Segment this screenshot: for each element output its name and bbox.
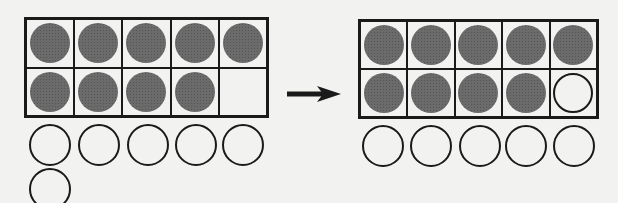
filled-counter-icon xyxy=(78,23,118,63)
filled-counter-icon xyxy=(175,72,215,112)
filled-counter-icon xyxy=(411,73,451,113)
empty-counter-icon xyxy=(553,125,595,167)
filled-counter-icon xyxy=(30,23,70,63)
empty-counter-icon xyxy=(29,168,71,203)
filled-counter-icon xyxy=(126,23,166,63)
empty-counter-icon xyxy=(505,125,547,167)
filled-counter-icon xyxy=(175,23,215,63)
frame-cell xyxy=(502,21,549,69)
filled-counter-icon xyxy=(506,73,546,113)
frame-cell xyxy=(171,19,219,68)
empty-counter-icon xyxy=(127,124,169,166)
right-arrow-icon xyxy=(287,86,341,102)
filled-counter-icon xyxy=(458,73,498,113)
frame-cell xyxy=(26,68,74,117)
frame-cell xyxy=(74,68,122,117)
filled-counter-icon xyxy=(506,25,546,65)
filled-counter-icon xyxy=(30,72,70,112)
frame-cell xyxy=(407,21,454,69)
frame-cell xyxy=(26,19,74,68)
frame-cell xyxy=(455,69,502,117)
empty-counter-icon xyxy=(410,125,452,167)
frame-cell xyxy=(122,68,170,117)
filled-counter-icon xyxy=(223,23,263,63)
frame-cell-empty xyxy=(219,68,267,117)
filled-counter-icon xyxy=(553,25,593,65)
frame-cell xyxy=(502,69,549,117)
empty-counter-icon xyxy=(553,73,593,113)
filled-counter-icon xyxy=(411,25,451,65)
filled-counter-icon xyxy=(126,72,166,112)
frame-cell xyxy=(171,68,219,117)
frame-cell xyxy=(550,69,597,117)
empty-counter-icon xyxy=(222,124,264,166)
frame-cell xyxy=(74,19,122,68)
frame-cell xyxy=(550,21,597,69)
empty-counter-icon xyxy=(175,124,217,166)
frame-cell xyxy=(407,69,454,117)
empty-counter-icon xyxy=(459,125,501,167)
empty-counter-icon xyxy=(78,124,120,166)
empty-counter-icon xyxy=(29,124,71,166)
frame-cell xyxy=(219,19,267,68)
filled-counter-icon xyxy=(458,25,498,65)
ten-frame-after xyxy=(358,19,599,119)
frame-cell xyxy=(360,69,407,117)
filled-counter-icon xyxy=(364,25,404,65)
frame-cell xyxy=(122,19,170,68)
filled-counter-icon xyxy=(78,72,118,112)
empty-counter-icon xyxy=(362,125,404,167)
frame-cell xyxy=(455,21,502,69)
ten-frame-before xyxy=(24,17,269,118)
frame-cell xyxy=(360,21,407,69)
filled-counter-icon xyxy=(364,73,404,113)
